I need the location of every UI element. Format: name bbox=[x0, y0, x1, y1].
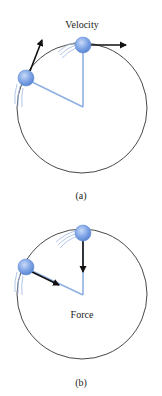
panel-b: Force (b) bbox=[15, 225, 147, 389]
velocity-label: Velocity bbox=[65, 19, 98, 30]
ball-left-a bbox=[18, 70, 34, 86]
ball-top-b bbox=[75, 225, 91, 241]
force-arrow-left bbox=[30, 271, 59, 285]
ball-left-b bbox=[18, 259, 34, 275]
force-label: Force bbox=[71, 309, 94, 320]
caption-a: (a) bbox=[75, 190, 86, 202]
orbit-circle-a bbox=[17, 43, 147, 173]
panel-a: Velocity (a) bbox=[15, 19, 147, 202]
string-left-a bbox=[28, 80, 83, 107]
motion-lines-left-b bbox=[15, 272, 23, 295]
ball-top-a bbox=[75, 37, 91, 53]
motion-lines-left-a bbox=[15, 84, 23, 107]
string-left-b bbox=[28, 269, 83, 295]
circular-motion-diagram: Velocity (a) Force (b) bbox=[0, 0, 162, 396]
velocity-arrow-left bbox=[30, 40, 42, 71]
caption-b: (b) bbox=[75, 377, 87, 389]
